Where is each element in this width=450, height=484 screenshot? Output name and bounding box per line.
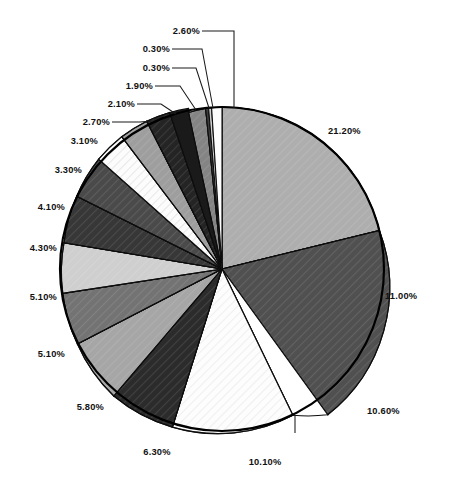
pie-label-10-10: 10.10% (249, 457, 282, 467)
pie-label-0-30-a: 0.30% (143, 44, 171, 54)
pie-label-5-80: 5.80% (77, 402, 105, 412)
leader-line-0-30-a (172, 49, 213, 108)
pie-slices-group (61, 107, 389, 434)
pie-label-2-60: 2.60% (173, 26, 201, 36)
pie-label-3-10: 3.10% (71, 136, 99, 146)
pie-label-10-60: 10.60% (367, 406, 400, 416)
pie-label-1-90: 1.90% (126, 81, 154, 91)
pie-label-4-10: 4.10% (38, 202, 66, 212)
pie-label-5-10-upper: 5.10% (30, 292, 58, 302)
pie-label-2-10: 2.10% (108, 99, 136, 109)
pie-label-0-30-b: 0.30% (143, 63, 171, 73)
pie-chart-figure: 2.60% 0.30% 0.30% 1.90% 2.10% 2.70% 3.10… (0, 0, 450, 484)
leader-line-2-60 (202, 31, 234, 108)
pie-label-6-30: 6.30% (143, 447, 171, 457)
pie-chart-svg: 2.60% 0.30% 0.30% 1.90% 2.10% 2.70% 3.10… (0, 0, 450, 484)
pie-label-2-70: 2.70% (83, 117, 111, 127)
leader-line-1-90 (155, 86, 196, 110)
pie-label-11-00: 11.00% (385, 291, 418, 301)
pie-label-5-10-lower: 5.10% (38, 349, 66, 359)
pie-label-3-30: 3.30% (55, 165, 83, 175)
pie-label-21-20: 21.20% (328, 126, 361, 136)
leader-line-2-70 (112, 121, 152, 122)
pie-label-4-30: 4.30% (30, 243, 58, 253)
